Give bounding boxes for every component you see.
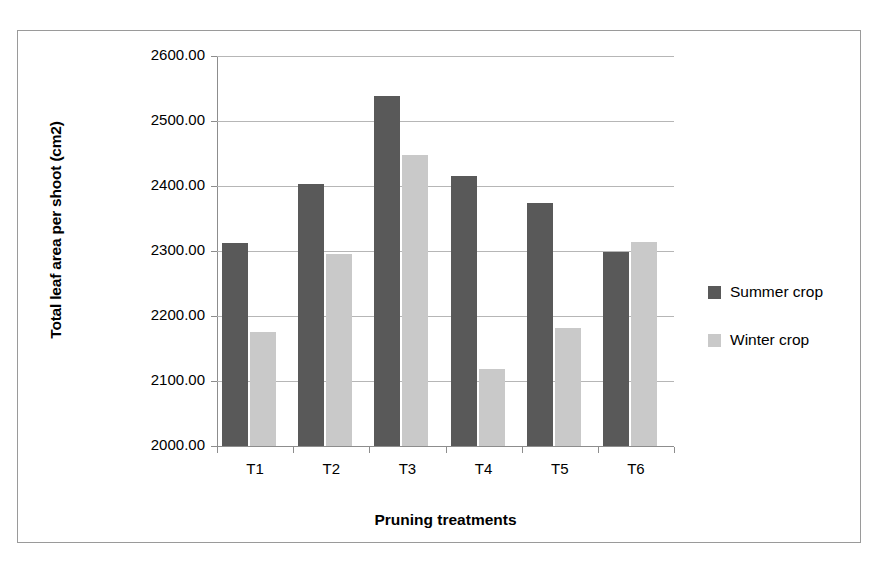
x-axis-tick-label: T6 — [598, 460, 674, 477]
x-axis-tick — [293, 447, 294, 453]
y-axis-tick-label: 2600.00 — [85, 46, 205, 63]
y-axis-tick — [211, 121, 217, 122]
axes-region: 2000.002100.002200.002300.002400.002500.… — [217, 56, 674, 446]
x-axis-title: Pruning treatments — [217, 511, 674, 529]
x-axis-tick-label: T3 — [369, 460, 445, 477]
gridline — [217, 121, 674, 122]
x-axis-tick — [522, 447, 523, 453]
y-axis-tick-label: 2200.00 — [85, 306, 205, 323]
bar-t6-summer — [603, 252, 629, 446]
legend-swatch-icon — [708, 286, 721, 299]
bar-t3-summer — [374, 96, 400, 446]
gridline — [217, 56, 674, 57]
x-axis-tick-label: T1 — [217, 460, 293, 477]
y-axis-tick-label: 2400.00 — [85, 176, 205, 193]
chart-figure: Total leaf area per shoot (cm2) 2000.002… — [17, 30, 861, 543]
y-axis-tick-label: 2500.00 — [85, 111, 205, 128]
x-axis-tick-label: T5 — [522, 460, 598, 477]
y-axis-tick — [211, 316, 217, 317]
legend-item-winter-crop[interactable]: Winter crop — [708, 330, 858, 350]
bar-t4-winter — [479, 369, 505, 446]
y-axis-tick-label: 2300.00 — [85, 241, 205, 258]
legend-item-summer-crop[interactable]: Summer crop — [708, 282, 858, 302]
chart-legend: Summer cropWinter crop — [708, 282, 858, 378]
x-axis-tick-label: T4 — [446, 460, 522, 477]
x-axis-tick-label: T2 — [293, 460, 369, 477]
x-axis-tick — [217, 447, 218, 453]
bar-t2-winter — [326, 254, 352, 446]
y-axis-tick — [211, 186, 217, 187]
y-axis-tick-label: 2100.00 — [85, 371, 205, 388]
bar-t5-winter — [555, 328, 581, 446]
x-axis-tick — [369, 447, 370, 453]
y-axis-tick — [211, 381, 217, 382]
bar-t1-summer — [222, 243, 248, 446]
bar-t1-winter — [250, 332, 276, 446]
y-axis-title: Total leaf area per shoot (cm2) — [47, 100, 65, 360]
x-axis-tick — [446, 447, 447, 453]
y-axis-tick — [211, 56, 217, 57]
plot-area: 2000.002100.002200.002300.002400.002500.… — [200, 56, 674, 446]
gridline — [217, 186, 674, 187]
bar-t6-winter — [631, 242, 657, 446]
bar-t5-summer — [527, 203, 553, 446]
x-axis-tick — [598, 447, 599, 453]
legend-label: Winter crop — [730, 331, 809, 349]
legend-swatch-icon — [708, 334, 721, 347]
legend-label: Summer crop — [730, 283, 823, 301]
y-axis-tick-label: 2000.00 — [85, 436, 205, 453]
bar-t4-summer — [451, 176, 477, 446]
bar-t2-summer — [298, 184, 324, 446]
bar-t3-winter — [402, 155, 428, 446]
x-axis-tick — [674, 447, 675, 453]
y-axis-tick — [211, 251, 217, 252]
